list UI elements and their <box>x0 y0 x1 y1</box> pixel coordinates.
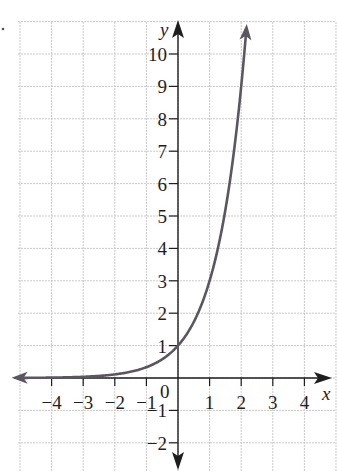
y-tick-label: 4 <box>158 238 168 259</box>
x-tick-label: −3 <box>73 392 93 413</box>
exponential-graph: −4−3−2−11234−2−112345678910 y x 0 <box>0 0 337 472</box>
y-tick-label: 5 <box>158 206 168 227</box>
y-tick-label: 8 <box>158 109 168 130</box>
x-axis-label: x <box>321 383 331 404</box>
x-tick-label: 2 <box>236 392 246 413</box>
y-tick-label: 9 <box>158 76 168 97</box>
y-tick-label: 6 <box>158 174 168 195</box>
y-tick-label: −1 <box>147 400 167 421</box>
x-tick-label: 1 <box>205 392 215 413</box>
y-tick-label: 2 <box>158 303 168 324</box>
x-tick-label: 4 <box>300 392 310 413</box>
y-tick-label: −2 <box>147 433 167 454</box>
bullet-dot <box>2 28 5 31</box>
y-tick-label: 3 <box>158 271 168 292</box>
x-tick-label: 3 <box>268 392 278 413</box>
y-tick-label: 1 <box>158 336 168 357</box>
x-tick-label: −4 <box>41 392 62 413</box>
origin-label: 0 <box>160 381 170 402</box>
y-tick-label: 10 <box>148 44 167 65</box>
grid-lines <box>18 22 336 472</box>
y-tick-label: 7 <box>158 141 168 162</box>
exponential-curve <box>22 36 246 378</box>
y-axis-label: y <box>158 19 169 40</box>
x-tick-label: −2 <box>105 392 125 413</box>
